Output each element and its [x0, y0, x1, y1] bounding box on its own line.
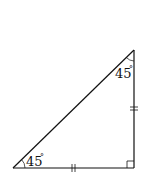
triangle-diagram: 45 ° 45 °: [0, 0, 142, 181]
right-angle-marker: [127, 161, 134, 168]
bottom-left-angle-arc: [22, 160, 25, 168]
bottom-left-angle-degree: °: [40, 152, 44, 161]
top-angle-arc: [126, 58, 134, 62]
top-angle-degree: °: [129, 64, 133, 73]
